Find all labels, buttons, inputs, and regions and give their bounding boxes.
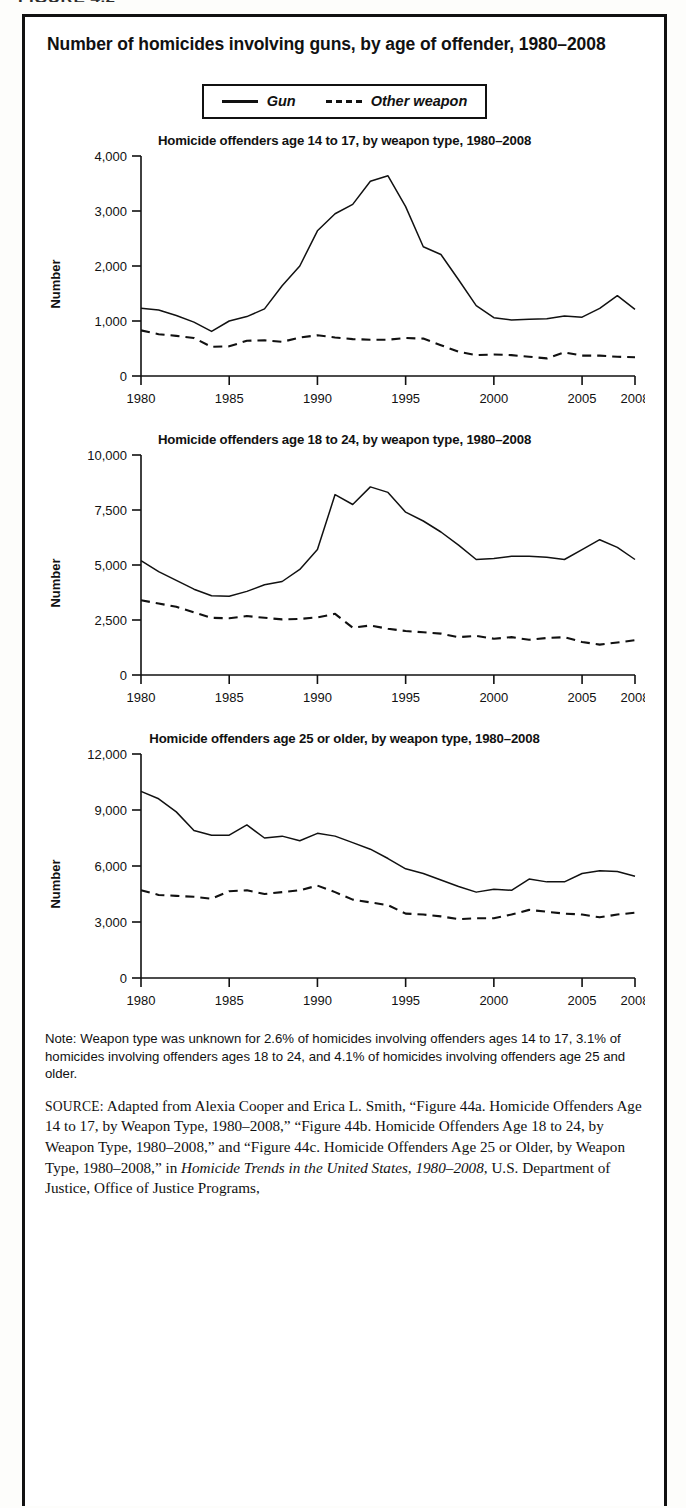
chart-legend: Gun Other weapon — [202, 84, 488, 119]
y-axis-label-age-14-17: Number — [48, 260, 63, 309]
y-tick-label: 9,000 — [94, 803, 127, 818]
x-tick-label: 1980 — [126, 690, 155, 705]
chart-title-age-14-17: Homicide offenders age 14 to 17, by weap… — [25, 133, 664, 148]
x-tick-label: 1995 — [391, 993, 420, 1008]
x-tick-label: 2005 — [567, 391, 596, 406]
y-tick-label: 10,000 — [87, 449, 127, 463]
x-tick-label: 2008 — [620, 993, 644, 1008]
x-tick-label: 1995 — [391, 690, 420, 705]
series-line-other-weapon — [141, 331, 635, 359]
figure-title: Number of homicides involving guns, by a… — [47, 33, 642, 56]
y-axis-label-age-18-24: Number — [48, 559, 63, 608]
source-label: SOURCE: — [45, 1099, 104, 1114]
series-line-gun — [141, 487, 635, 596]
x-tick-label: 1985 — [214, 690, 243, 705]
y-tick-label: 0 — [119, 369, 126, 384]
legend-label-other-weapon: Other weapon — [371, 93, 468, 109]
series-line-other-weapon — [141, 600, 635, 644]
x-tick-label: 1980 — [126, 391, 155, 406]
figure-container: Number of homicides involving guns, by a… — [22, 14, 667, 1506]
y-tick-label: 1,000 — [94, 314, 127, 329]
figure-note: Note: Weapon type was unknown for 2.6% o… — [45, 1030, 644, 1082]
x-tick-label: 1990 — [302, 690, 331, 705]
source-italic-title: Homicide Trends in the United States, 19… — [181, 1159, 484, 1176]
x-tick-label: 1990 — [302, 993, 331, 1008]
y-tick-label: 12,000 — [87, 748, 127, 762]
plot-row-age-18-24: Number 02,5005,0007,50010,00019801985199… — [25, 449, 664, 717]
x-tick-label: 1985 — [214, 993, 243, 1008]
legend-label-gun: Gun — [267, 93, 296, 109]
x-tick-label: 2005 — [567, 993, 596, 1008]
legend-item-other-weapon: Other weapon — [326, 93, 468, 109]
x-tick-label: 2000 — [479, 993, 508, 1008]
chart-title-age-18-24: Homicide offenders age 18 to 24, by weap… — [25, 432, 664, 447]
y-tick-label: 6,000 — [94, 859, 127, 874]
y-tick-label: 3,000 — [94, 915, 127, 930]
x-tick-label: 2000 — [479, 391, 508, 406]
series-line-gun — [141, 176, 635, 332]
y-tick-label: 7,500 — [94, 503, 127, 518]
y-tick-label: 3,000 — [94, 204, 127, 219]
y-tick-label: 2,500 — [94, 613, 127, 628]
solid-line-swatch-icon — [222, 100, 258, 103]
y-axis-label-age-25-older: Number — [48, 860, 63, 909]
x-tick-label: 1990 — [302, 391, 331, 406]
plot-row-age-14-17: Number 01,0002,0003,0004,000198019851990… — [25, 150, 664, 418]
line-chart-age-14-17: 01,0002,0003,0004,0001980198519901995200… — [45, 150, 645, 418]
y-tick-label: 4,000 — [94, 150, 127, 164]
chart-panel-age-25-older: Homicide offenders age 25 or older, by w… — [25, 731, 664, 1020]
x-tick-label: 1980 — [126, 993, 155, 1008]
y-tick-label: 0 — [119, 971, 126, 986]
x-tick-label: 1985 — [214, 391, 243, 406]
chart-panel-age-18-24: Homicide offenders age 18 to 24, by weap… — [25, 432, 664, 717]
legend-wrapper: Gun Other weapon — [25, 84, 664, 119]
x-tick-label: 2005 — [567, 690, 596, 705]
y-tick-label: 2,000 — [94, 259, 127, 274]
dashed-line-swatch-icon — [326, 100, 362, 103]
chart-title-age-25-older: Homicide offenders age 25 or older, by w… — [25, 731, 664, 746]
figure-number-header: FIGURE 4.2 — [18, 0, 116, 2]
line-chart-age-25-older: 03,0006,0009,00012,000198019851990199520… — [45, 748, 645, 1020]
plot-row-age-25-older: Number 03,0006,0009,00012,00019801985199… — [25, 748, 664, 1020]
y-tick-label: 5,000 — [94, 558, 127, 573]
figure-source: SOURCE: Adapted from Alexia Cooper and E… — [45, 1096, 644, 1199]
x-tick-label: 2008 — [620, 391, 644, 406]
x-tick-label: 2008 — [620, 690, 644, 705]
chart-panel-age-14-17: Homicide offenders age 14 to 17, by weap… — [25, 133, 664, 418]
legend-item-gun: Gun — [222, 93, 296, 109]
x-tick-label: 1995 — [391, 391, 420, 406]
series-line-other-weapon — [141, 886, 635, 920]
x-tick-label: 2000 — [479, 690, 508, 705]
series-line-gun — [141, 792, 635, 893]
line-chart-age-18-24: 02,5005,0007,50010,000198019851990199520… — [45, 449, 645, 717]
y-tick-label: 0 — [119, 668, 126, 683]
